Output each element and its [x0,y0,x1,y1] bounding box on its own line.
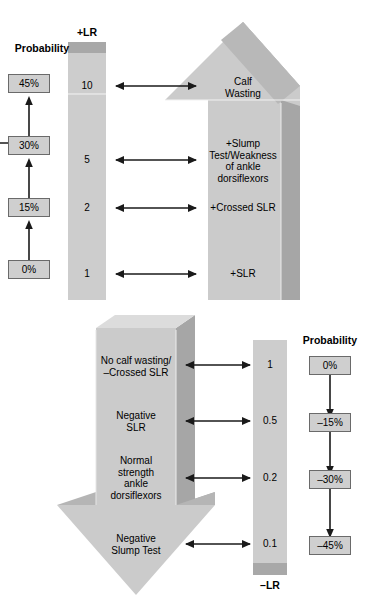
lower-lr-header: –LR [260,580,280,592]
upper-test-label-calf-wasting: Calf Wasting [225,76,261,99]
upper-lr-value-1: 1 [84,268,90,279]
lower-lr-value-0-5: 0.5 [263,415,277,426]
upper-test-label-slr: +SLR [230,268,255,280]
upper-test-label-slr-text: +SLR [230,268,255,279]
lower-test-label-no-calf-wasting: No calf wasting/ –Crossed SLR [101,355,172,378]
upper-connector-arrows [116,86,196,274]
upper-lr-value-2: 2 [84,202,90,213]
upper-test-label-slump-text: +Slump Test/Weakness of ankle dorsiflexo… [209,138,277,184]
lower-test-label-negative-slr: Negative SLR [116,410,155,433]
upper-probability-box-15: 15% [8,198,50,217]
upper-lr-header: +LR [77,27,97,39]
figure-shapes [0,0,370,605]
lower-test-label-negative-slump: Negative Slump Test [111,533,160,556]
likelihood-ratio-figure: Probability +LR 45% 30% 15% 0% 10 5 2 1 … [0,0,370,605]
lower-probability-box-minus30: –30% [309,470,351,489]
lower-test-label-normal-strength-text: Normal strength ankle dorsiflexors [110,455,161,501]
lower-lr-value-0-2: 0.2 [263,472,277,483]
upper-probability-header: Probability [15,43,69,55]
lower-test-label-negative-slump-text: Negative Slump Test [111,533,160,556]
upper-probability-box-0: 0% [8,260,50,279]
upper-probability-box-45: 45% [8,74,50,93]
upper-lr-value-10: 10 [81,80,92,91]
upper-test-label-crossed-slr: +Crossed SLR [210,202,275,214]
upper-probability-box-30: 30% [8,136,50,155]
lower-probability-box-minus15: –15% [309,413,351,432]
lower-probability-box-0: 0% [309,356,351,375]
lower-lr-value-1: 1 [267,359,273,370]
lower-probability-box-minus45: –45% [309,536,351,555]
lower-test-label-normal-strength: Normal strength ankle dorsiflexors [110,455,161,501]
upper-lr-value-5: 5 [84,154,90,165]
upper-test-label-slump: +Slump Test/Weakness of ankle dorsiflexo… [209,138,277,184]
lower-probability-header: Probability [303,335,357,347]
lower-probability-arrows [326,375,334,538]
upper-probability-arrows [25,96,33,267]
upper-test-label-crossed-slr-text: +Crossed SLR [210,202,275,213]
lower-lr-value-0-1: 0.1 [263,538,277,549]
lower-test-label-negative-slr-text: Negative SLR [116,410,155,433]
upper-test-label-calf-wasting-text: Calf Wasting [225,76,261,99]
lower-test-label-no-calf-wasting-text: No calf wasting/ –Crossed SLR [101,355,172,378]
